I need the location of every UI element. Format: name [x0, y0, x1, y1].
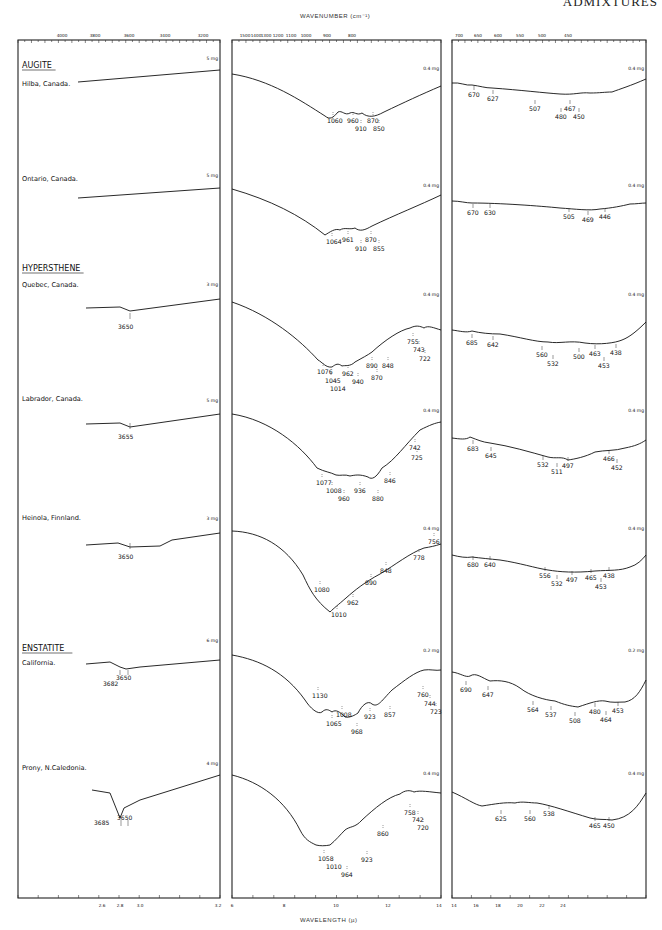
- sample-mass-oh: 3 mg: [206, 282, 218, 287]
- band-label-mid: 960: [347, 117, 359, 124]
- band-label-mid: 778: [413, 554, 425, 561]
- band-label-mid: 870: [365, 236, 377, 243]
- top-tick-label: 600: [494, 33, 502, 38]
- band-label-far: 450: [603, 822, 615, 829]
- top-tick-label: 1300: [261, 33, 272, 38]
- band-label-mid: 758: [404, 809, 416, 816]
- bottom-tick-label: 3.0: [137, 903, 144, 908]
- band-label-mid: 723: [430, 708, 442, 715]
- band-label-oh: 3650: [116, 674, 131, 681]
- band-label-mid: 720: [417, 824, 429, 831]
- band-label-mid: 760: [417, 691, 429, 698]
- band-label-mid: 846: [384, 477, 396, 484]
- spectrum-mid: [232, 74, 441, 118]
- band-label-far: 625: [495, 815, 507, 822]
- top-tick-label: 500: [538, 33, 546, 38]
- band-label-mid: 923: [361, 856, 373, 863]
- band-label-far: 466: [603, 455, 615, 462]
- sample-mass-mid: 0.4 mg: [423, 66, 439, 71]
- sample-mass-mid: 0.4 mg: [423, 408, 439, 413]
- band-label-far: 642: [487, 341, 499, 348]
- spectrum-oh: [86, 533, 220, 547]
- band-label-mid: 870: [367, 117, 379, 124]
- band-label-mid: 725: [411, 454, 423, 461]
- sample-locality: Ontario, Canada.: [22, 175, 78, 183]
- bottom-tick-label: 14: [436, 903, 442, 908]
- band-label-mid: 1080: [314, 586, 330, 593]
- band-label-far: 640: [484, 561, 496, 568]
- sample-locality: Hilba, Canada.: [22, 80, 70, 88]
- band-label-far: 630: [484, 209, 496, 216]
- spectrum-far: [452, 322, 646, 344]
- sample-mass-oh: 5 mg: [206, 56, 218, 61]
- band-label-far: 450: [573, 113, 585, 120]
- band-label-far: 564: [527, 706, 539, 713]
- band-label-mid: 1010: [326, 863, 342, 870]
- spectrum-far: [452, 437, 646, 460]
- band-label-mid: 742: [412, 816, 424, 823]
- spectrum-oh: [86, 299, 220, 311]
- band-label-far: 453: [595, 583, 607, 590]
- bottom-tick-label: 12: [385, 903, 391, 908]
- band-label-far: 627: [487, 95, 499, 102]
- band-label-far: 453: [598, 362, 610, 369]
- band-label-mid: 1008: [336, 711, 352, 718]
- sample-locality: Heinola, Finnland.: [22, 514, 81, 522]
- sample-mass-oh: 6 mg: [206, 638, 218, 643]
- band-label-oh: 3650: [118, 553, 133, 560]
- spectrum-mid: [232, 302, 441, 367]
- bottom-tick-label: 6: [231, 903, 234, 908]
- band-label-far: 645: [485, 452, 497, 459]
- top-tick-label: 1000: [301, 33, 312, 38]
- spectrum-oh: [78, 188, 220, 198]
- sample-mass-far: 0.4 mg: [628, 526, 644, 531]
- bottom-tick-label: 2.6: [99, 903, 106, 908]
- band-label-far: 511: [551, 468, 563, 475]
- band-label-far: 508: [569, 717, 581, 724]
- band-label-far: 680: [467, 561, 479, 568]
- band-label-mid: 964: [341, 871, 353, 878]
- band-label-mid: 1130: [312, 692, 328, 699]
- band-label-far: 465: [585, 574, 597, 581]
- band-label-far: 670: [467, 209, 479, 216]
- bottom-tick-label: 3.2: [215, 903, 222, 908]
- spectrum-mid: [232, 531, 441, 612]
- band-label-mid: 744: [424, 700, 436, 707]
- spectrum-far: [452, 672, 646, 707]
- band-label-far: 532: [537, 461, 549, 468]
- top-tick-label: 3800: [90, 33, 101, 38]
- band-label-mid: 742: [409, 444, 421, 451]
- band-label-mid: 1076: [317, 368, 333, 375]
- top-tick-label: 3200: [198, 33, 209, 38]
- band-label-mid: 855: [373, 245, 385, 252]
- band-label-far: 463: [589, 350, 601, 357]
- band-label-oh: 3655: [118, 433, 133, 440]
- sample-mass-oh: 5 mg: [206, 173, 218, 178]
- band-label-mid: 848: [382, 362, 394, 369]
- band-label-mid: 848: [380, 567, 392, 574]
- spectrum-far: [452, 79, 646, 94]
- sample-mass-far: 0.2 mg: [628, 648, 644, 653]
- sample-mass-oh: 4 mg: [206, 761, 218, 766]
- band-label-far: 690: [460, 686, 472, 693]
- band-label-mid: 1064: [326, 238, 342, 245]
- band-label-mid: 960: [338, 495, 350, 502]
- bottom-tick-label: 8: [283, 903, 286, 908]
- top-tick-label: 4000: [57, 33, 68, 38]
- bottom-tick-label: 2.8: [117, 903, 124, 908]
- top-tick-label: 3600: [124, 33, 135, 38]
- sample-mass-far: 0.4 mg: [628, 408, 644, 413]
- spectrum-mid: [232, 655, 441, 717]
- top-tick-label: 3400: [160, 33, 171, 38]
- band-label-far: 670: [468, 91, 480, 98]
- band-label-far: 469: [582, 216, 594, 223]
- sample-mass-mid: 0.4 mg: [423, 183, 439, 188]
- spectrum-far: [452, 201, 646, 210]
- band-label-mid: 936: [354, 487, 366, 494]
- band-label-mid: 1010: [331, 611, 347, 618]
- band-label-far: 500: [573, 353, 585, 360]
- spectrum-oh: [86, 660, 220, 669]
- band-label-mid: 870: [371, 374, 383, 381]
- band-label-mid: 743: [413, 346, 425, 353]
- band-label-far: 505: [563, 213, 575, 220]
